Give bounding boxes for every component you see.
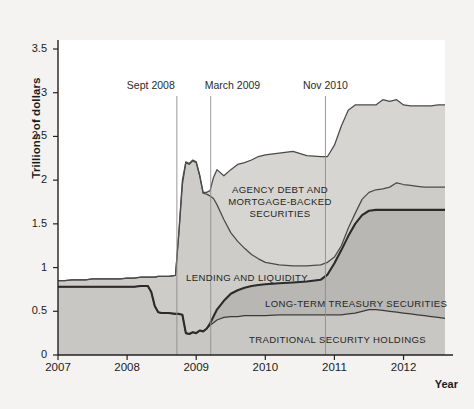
annotation-label-nov-2010: Nov 2010 bbox=[303, 79, 348, 91]
x-axis-title: Year bbox=[435, 378, 458, 390]
y-axis-tick-label: 3.5 bbox=[21, 42, 47, 54]
series-label-agency-line2: MORTGAGE-BACKED bbox=[186, 196, 374, 207]
y-axis-tick-label: 1.5 bbox=[21, 217, 47, 229]
x-axis-tick-label: 2008 bbox=[105, 361, 149, 373]
y-axis-tick-label: 0.5 bbox=[21, 304, 47, 316]
series-label-traditional-holdings: TRADITIONAL SECURITY HOLDINGS bbox=[249, 334, 426, 345]
y-axis-tick-label: 1 bbox=[21, 261, 47, 273]
annotation-label-march-2009: March 2009 bbox=[205, 79, 260, 91]
x-axis-tick-label: 2012 bbox=[382, 361, 426, 373]
series-label-lending-and-liquidity: LENDING AND LIQUIDITY bbox=[186, 272, 308, 283]
x-axis-tick-label: 2009 bbox=[174, 361, 218, 373]
y-axis-tick-label: 3 bbox=[21, 86, 47, 98]
annotation-label-sept-2008: Sept 2008 bbox=[127, 79, 175, 91]
chart-figure: Trillions of dollars Year Sept 2008 Marc… bbox=[0, 0, 474, 409]
y-axis-tick-label: 0 bbox=[21, 348, 47, 360]
y-axis-tick-label: 2.5 bbox=[21, 129, 47, 141]
x-axis-tick-label: 2007 bbox=[36, 361, 80, 373]
y-axis-tick-label: 2 bbox=[21, 173, 47, 185]
series-label-agency-line1: AGENCY DEBT AND bbox=[186, 184, 374, 195]
series-label-agency-line3: SECURITIES bbox=[186, 208, 374, 219]
x-axis-tick-label: 2010 bbox=[243, 361, 287, 373]
x-axis-tick-label: 2011 bbox=[312, 361, 356, 373]
series-label-long-term-treasury: LONG-TERM TREASURY SECURITIES bbox=[265, 298, 447, 309]
